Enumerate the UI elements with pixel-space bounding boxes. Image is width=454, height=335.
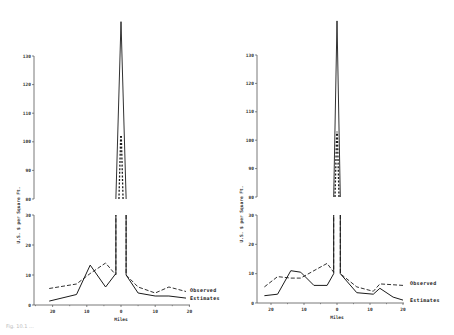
spike-solid bbox=[334, 21, 341, 197]
y-tick-label: 10 bbox=[26, 273, 32, 278]
series-lower-left bbox=[264, 215, 333, 287]
x-tick-label: 20 bbox=[187, 309, 193, 314]
y-tick-label: 30 bbox=[249, 213, 255, 218]
observed-series: Observed bbox=[264, 132, 436, 292]
y-tick-label: 80 bbox=[249, 195, 255, 200]
y-tick-label: 0 bbox=[251, 301, 254, 306]
x-tick-label: 10 bbox=[152, 309, 158, 314]
x-tick-label: 10 bbox=[367, 307, 373, 312]
y-tick-label: 30 bbox=[26, 213, 32, 218]
y-tick-label: 120 bbox=[23, 82, 31, 87]
y-tick-label: 80 bbox=[26, 197, 32, 202]
y-tick-label: 110 bbox=[23, 111, 31, 116]
y-tick-label: 90 bbox=[26, 168, 32, 173]
y-tick-label: 90 bbox=[249, 166, 255, 171]
series-lower-right bbox=[340, 215, 403, 300]
legend-label-estimates: Estimates bbox=[410, 297, 440, 303]
figure-caption: Fig. 10.1 ... bbox=[6, 323, 34, 329]
y-axis-title: U.S. $ per Square Ft. bbox=[239, 186, 244, 243]
series-lower-right bbox=[340, 215, 403, 291]
y-axis-title: U.S. $ per Square Ft. bbox=[16, 187, 21, 244]
x-tick-label: 20 bbox=[268, 307, 274, 312]
series-lower-right bbox=[126, 215, 186, 293]
x-tick-label: 10 bbox=[84, 309, 90, 314]
series-lower-left bbox=[264, 215, 333, 296]
legend-label-observed: Observed bbox=[410, 280, 436, 286]
left-chart: 80901001101201300102030U.S. $ per Square… bbox=[16, 22, 220, 322]
y-tick-label: 100 bbox=[246, 138, 254, 143]
y-tick-label: 130 bbox=[23, 54, 31, 59]
series-lower-left bbox=[49, 215, 116, 289]
x-tick-label: 20 bbox=[50, 309, 56, 314]
observed-series: Observed bbox=[49, 136, 216, 293]
broken-axis-line-charts: 80901001101201300102030U.S. $ per Square… bbox=[0, 0, 454, 335]
estimates-series: Estimates bbox=[49, 22, 220, 301]
y-tick-label: 10 bbox=[249, 271, 255, 276]
right-chart: 80901001101201300102030U.S. $ per Square… bbox=[239, 21, 440, 320]
spike-solid bbox=[116, 22, 126, 199]
y-tick-label: 120 bbox=[246, 81, 254, 86]
series-lower-right bbox=[126, 215, 186, 298]
spike-dashed-right bbox=[121, 136, 123, 199]
x-tick-label: 20 bbox=[400, 307, 406, 312]
legend-label-estimates: Estimates bbox=[190, 295, 220, 301]
y-tick-label: 110 bbox=[246, 109, 254, 114]
y-tick-label: 20 bbox=[26, 243, 32, 248]
x-tick-label: 10 bbox=[301, 307, 307, 312]
x-tick-label: 0 bbox=[336, 307, 339, 312]
estimates-series: Estimates bbox=[264, 21, 439, 303]
y-tick-label: 130 bbox=[246, 53, 254, 58]
legend-label-observed: Observed bbox=[190, 287, 216, 293]
y-tick-label: 100 bbox=[23, 139, 31, 144]
x-axis-title: Miles bbox=[114, 317, 128, 322]
spike-dashed-left bbox=[119, 136, 121, 199]
spike-dashed-left bbox=[335, 132, 337, 197]
x-tick-label: 0 bbox=[120, 309, 123, 314]
series-lower-left bbox=[49, 215, 116, 301]
y-tick-label: 0 bbox=[28, 303, 31, 308]
x-axis-title: Miles bbox=[330, 315, 344, 320]
spike-dashed-right bbox=[337, 132, 339, 197]
y-tick-label: 20 bbox=[249, 242, 255, 247]
